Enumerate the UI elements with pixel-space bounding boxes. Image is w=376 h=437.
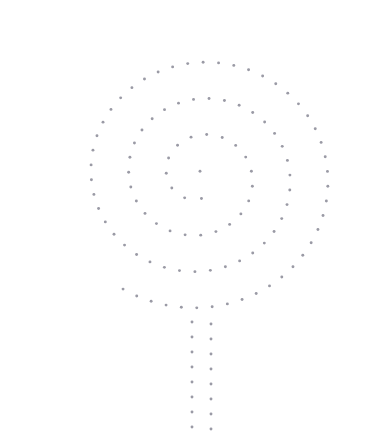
data-point [149, 260, 152, 263]
data-point [251, 252, 254, 255]
data-point [280, 276, 283, 279]
data-point [176, 144, 179, 147]
data-point [171, 65, 174, 68]
data-point [191, 426, 194, 429]
data-point [199, 170, 202, 173]
data-point [234, 144, 237, 147]
data-point [210, 413, 213, 416]
data-point [151, 117, 154, 120]
data-point [247, 199, 250, 202]
data-point [191, 411, 194, 414]
data-point [210, 353, 213, 356]
data-point [141, 129, 144, 132]
data-point [170, 187, 173, 190]
data-point [322, 214, 325, 217]
data-point [251, 185, 254, 188]
data-point [199, 234, 202, 237]
data-point [97, 207, 100, 210]
data-point [320, 141, 323, 144]
data-point [163, 108, 166, 111]
plot-background [0, 0, 376, 437]
data-point [90, 178, 93, 181]
data-point [191, 351, 194, 354]
data-point [135, 253, 138, 256]
data-point [208, 97, 211, 100]
data-point [96, 134, 99, 137]
data-point [250, 170, 253, 173]
data-point [286, 203, 289, 206]
data-point [135, 294, 138, 297]
data-point [157, 71, 160, 74]
data-point [238, 104, 241, 107]
data-point [326, 185, 329, 188]
data-point [238, 259, 241, 262]
data-point [122, 288, 125, 291]
data-point [102, 121, 105, 124]
data-point [190, 136, 193, 139]
data-point [223, 99, 226, 102]
data-point [255, 292, 258, 295]
data-point [261, 75, 264, 78]
scatter-plot-canvas [0, 0, 376, 437]
data-point [150, 300, 153, 303]
data-point [191, 366, 194, 369]
data-point [214, 230, 217, 233]
data-point [210, 323, 213, 326]
data-point [274, 82, 277, 85]
data-point [127, 171, 130, 174]
data-point [325, 200, 328, 203]
data-point [210, 398, 213, 401]
data-point [210, 428, 213, 431]
data-point [244, 156, 247, 159]
data-point [232, 64, 235, 67]
data-point [324, 155, 327, 158]
data-point [128, 156, 131, 159]
data-point [192, 98, 195, 101]
data-point [92, 149, 95, 152]
data-point [247, 68, 250, 71]
data-point [178, 269, 181, 272]
data-point [281, 145, 284, 148]
data-point [195, 306, 198, 309]
data-point [90, 163, 93, 166]
data-point [288, 174, 291, 177]
data-point [286, 92, 289, 95]
data-point [104, 220, 107, 223]
data-point [286, 159, 289, 162]
data-point [110, 108, 113, 111]
data-point [119, 96, 122, 99]
data-point [316, 228, 319, 231]
data-point [288, 189, 291, 192]
data-point [165, 304, 168, 307]
data-point [301, 254, 304, 257]
data-point [135, 200, 138, 203]
data-point [143, 78, 146, 81]
data-point [210, 383, 213, 386]
data-point [191, 336, 194, 339]
data-point [241, 298, 244, 301]
data-point [297, 102, 300, 105]
data-point [191, 321, 194, 324]
data-point [169, 229, 172, 232]
data-point [224, 265, 227, 268]
spiral-scatter-svg [0, 0, 376, 437]
data-point [144, 212, 147, 215]
data-point [273, 230, 276, 233]
data-point [273, 132, 276, 135]
data-point [251, 111, 254, 114]
data-point [200, 197, 203, 200]
data-point [221, 136, 224, 139]
data-point [184, 233, 187, 236]
data-point [268, 284, 271, 287]
data-point [167, 157, 170, 160]
data-point [186, 62, 189, 65]
data-point [306, 114, 309, 117]
data-point [193, 270, 196, 273]
data-point [211, 305, 214, 308]
data-point [314, 127, 317, 130]
data-point [113, 233, 116, 236]
data-point [280, 217, 283, 220]
data-point [177, 102, 180, 105]
data-point [326, 170, 329, 173]
data-point [205, 133, 208, 136]
